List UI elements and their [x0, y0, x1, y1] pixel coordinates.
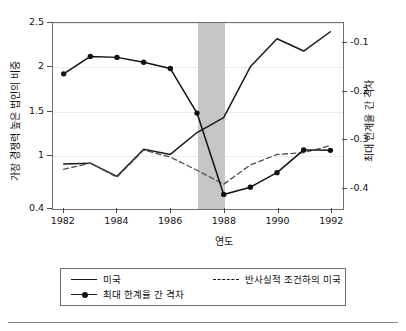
- series-marker: [301, 147, 306, 152]
- x-axis-ticklabel: 1984: [104, 216, 128, 226]
- legend-label-marginal-rate-gap: 최대 한계율 간 격차: [103, 290, 184, 300]
- y-axis-tick-right: [342, 42, 347, 43]
- legend-swatch-solid-line-icon: [71, 275, 97, 285]
- y-axis-tick-right: [342, 139, 347, 140]
- y-axis-label-right: 최대 한계율 간 격차: [365, 41, 375, 201]
- x-axis-label: 연도: [173, 236, 233, 247]
- footer-divider: [8, 322, 398, 323]
- x-axis-tick: [331, 208, 332, 213]
- y-axis-ticklabel-left: 0.4: [8, 203, 44, 213]
- legend-item-marginal-rate-gap: 최대 한계율 간 격차: [71, 290, 184, 300]
- x-axis-ticklabel: 1990: [265, 216, 289, 226]
- series-marker: [221, 192, 226, 197]
- chart-legend: 미국 최대 한계율 간 격차 반사실적 조건하의 미국: [60, 268, 346, 306]
- series-layer: [53, 23, 343, 209]
- x-axis-ticklabel: 1992: [319, 216, 343, 226]
- x-axis-tick: [278, 208, 279, 213]
- x-axis-tick: [224, 208, 225, 213]
- legend-label-us: 미국: [103, 275, 121, 285]
- x-axis-ticklabel: 1988: [212, 216, 236, 226]
- x-axis-ticklabel: 1982: [51, 216, 75, 226]
- series-marker: [61, 71, 66, 76]
- series-marker: [248, 184, 253, 189]
- y-axis-ticklabel-left: 2.5: [8, 17, 44, 27]
- series-marker: [114, 55, 119, 60]
- x-axis-ticklabel: 1986: [158, 216, 182, 226]
- series-marker: [168, 66, 173, 71]
- gridline: [53, 209, 343, 210]
- plot-area: [52, 22, 344, 210]
- x-axis-tick: [63, 208, 64, 213]
- y-axis-tick-left: [47, 155, 52, 156]
- legend-label-counterfactual-us: 반사실적 조건하의 미국: [245, 275, 341, 285]
- y-axis-tick-left: [47, 111, 52, 112]
- x-axis-tick: [116, 208, 117, 213]
- chart-figure: 0.411.522.5-0.4-0.3-0.2-0.11982198419861…: [0, 0, 406, 331]
- series-marker: [88, 54, 93, 59]
- x-axis-label-wrap: 연도: [0, 237, 406, 247]
- x-axis-tick: [170, 208, 171, 213]
- legend-swatch-line-with-marker-icon: [71, 290, 97, 300]
- y-axis-tick-right: [342, 91, 347, 92]
- y-axis-tick-left: [47, 208, 52, 209]
- series-line-1: [64, 146, 331, 185]
- series-marker: [194, 110, 199, 115]
- series-marker: [141, 60, 146, 65]
- legend-item-counterfactual-us: 반사실적 조건하의 미국: [213, 275, 341, 285]
- legend-swatch-dashed-line-icon: [213, 275, 239, 285]
- series-marker: [274, 170, 279, 175]
- series-line-2: [64, 56, 331, 194]
- y-axis-tick-right: [342, 188, 347, 189]
- y-axis-label-left: 가장 경쟁력 높은 법인의 비중: [11, 41, 21, 201]
- series-line-0: [64, 32, 331, 177]
- y-axis-tick-left: [47, 22, 52, 23]
- series-marker: [328, 148, 333, 153]
- y-axis-tick-left: [47, 66, 52, 67]
- legend-item-us: 미국: [71, 275, 121, 285]
